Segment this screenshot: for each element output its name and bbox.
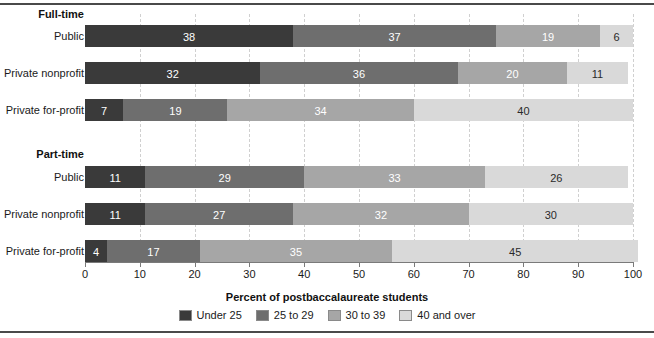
x-tick-label: 40 (298, 268, 310, 280)
bar-value-label: 38 (86, 26, 292, 48)
bar-segment: 11 (567, 62, 627, 84)
bottom-rule (0, 331, 654, 333)
legend-item[interactable]: 40 and over (399, 309, 475, 321)
bar-segment: 11 (85, 203, 145, 225)
bar-segment: 32 (85, 62, 260, 84)
bar-segment: 40 (414, 99, 633, 121)
bar-row: 11273230 (0, 203, 654, 225)
x-tick-label: 20 (188, 268, 200, 280)
bar-value-label: 34 (228, 100, 412, 122)
chart-figure: 0102030405060708090100 Full-timePublicPr… (0, 0, 654, 338)
bar-segment: 37 (293, 25, 496, 47)
bar-value-label: 17 (108, 241, 199, 263)
legend-label: 40 and over (417, 309, 475, 321)
x-tick-label: 70 (462, 268, 474, 280)
bar-value-label: 20 (459, 63, 567, 85)
legend-item[interactable]: 30 to 39 (328, 309, 386, 321)
bar-row: 11293326 (0, 166, 654, 188)
bar-value-label: 33 (305, 167, 484, 189)
bar-value-label: 19 (124, 100, 226, 122)
bar-segment: 27 (145, 203, 293, 225)
bar-value-label: 11 (86, 167, 144, 189)
top-rule (0, 3, 654, 5)
bar-segment: 6 (600, 25, 633, 47)
bar-segment: 45 (392, 240, 639, 262)
bar-row: 3837196 (0, 25, 654, 47)
bar-segment: 19 (123, 99, 227, 121)
bar-row: 32362011 (0, 62, 654, 84)
bar-segment: 30 (469, 203, 633, 225)
bar-segment: 4 (85, 240, 107, 262)
x-tick-label: 50 (353, 268, 365, 280)
legend-label: 30 to 39 (346, 309, 386, 321)
bar-value-label: 32 (86, 63, 259, 85)
bar-segment: 11 (85, 166, 145, 188)
bar-value-label: 7 (86, 100, 122, 122)
bar-segment: 38 (85, 25, 293, 47)
x-tick-label: 90 (572, 268, 584, 280)
legend-label: 25 to 29 (274, 309, 314, 321)
bar-value-label: 29 (146, 167, 303, 189)
bar-value-label: 30 (470, 204, 632, 226)
x-tick-label: 30 (243, 268, 255, 280)
bar-value-label: 4 (86, 241, 106, 263)
bar-segment: 20 (458, 62, 568, 84)
legend-swatch-icon (179, 310, 192, 321)
bar-value-label: 6 (601, 26, 632, 48)
x-tick-label: 60 (408, 268, 420, 280)
chart-legend: Under 2525 to 2930 to 3940 and over (0, 309, 654, 321)
bar-segment: 29 (145, 166, 304, 188)
bar-value-label: 11 (86, 204, 144, 226)
bar-value-label: 19 (497, 26, 599, 48)
bar-segment: 34 (227, 99, 413, 121)
x-tick-label: 10 (134, 268, 146, 280)
bar-row: 4173545 (0, 240, 654, 262)
bar-value-label: 32 (294, 204, 467, 226)
bar-value-label: 26 (486, 167, 626, 189)
legend-label: Under 25 (197, 309, 242, 321)
bar-value-label: 27 (146, 204, 292, 226)
bar-segment: 19 (496, 25, 600, 47)
group-header-part-time: Part-time (36, 148, 84, 160)
bar-segment: 7 (85, 99, 123, 121)
bar-row: 7193440 (0, 99, 654, 121)
bar-segment: 32 (293, 203, 468, 225)
bar-value-label: 35 (201, 241, 391, 263)
legend-item[interactable]: 25 to 29 (256, 309, 314, 321)
bar-segment: 33 (304, 166, 485, 188)
x-tick-label: 80 (517, 268, 529, 280)
x-axis-title: Percent of postbaccalaureate students (0, 291, 654, 303)
bar-segment: 35 (200, 240, 392, 262)
bar-segment: 17 (107, 240, 200, 262)
legend-swatch-icon (399, 310, 412, 321)
bar-value-label: 40 (415, 100, 632, 122)
legend-swatch-icon (256, 310, 269, 321)
group-header-full-time: Full-time (38, 8, 84, 20)
legend-swatch-icon (328, 310, 341, 321)
bar-value-label: 37 (294, 26, 495, 48)
bar-segment: 26 (485, 166, 627, 188)
x-tick-label: 0 (82, 268, 88, 280)
x-tick-label: 100 (624, 268, 642, 280)
bar-value-label: 36 (261, 63, 456, 85)
bar-value-label: 45 (393, 241, 638, 263)
bar-segment: 36 (260, 62, 457, 84)
bar-value-label: 11 (568, 63, 626, 85)
legend-item[interactable]: Under 25 (179, 309, 242, 321)
